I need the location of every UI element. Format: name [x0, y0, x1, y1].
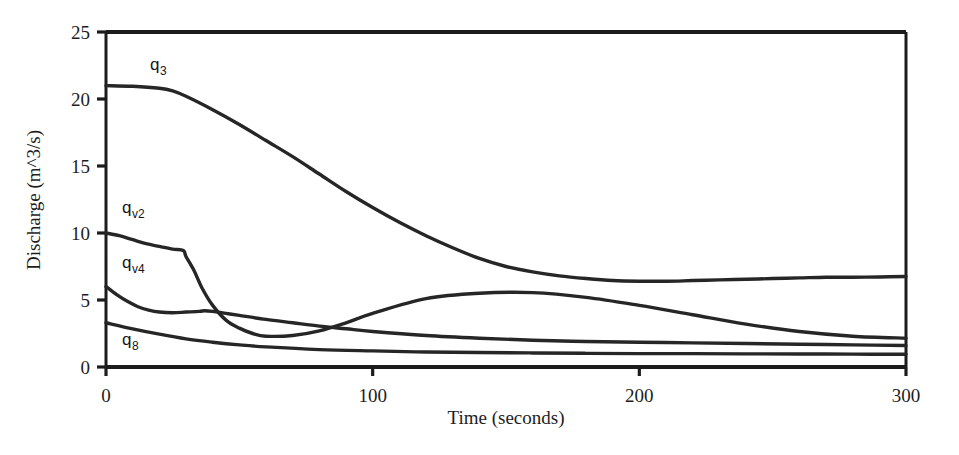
curve-q3: [106, 86, 906, 282]
axis-ticks: [97, 32, 906, 376]
series-label-subscript: v4: [132, 262, 145, 276]
series-label-subscript: 3: [160, 64, 167, 78]
series-label-qv4: qv4: [122, 253, 145, 276]
chart-figure: 05101520250100200300 q3qv2qv4q8 Time (se…: [0, 0, 959, 455]
series-label-subscript: 8: [132, 339, 139, 353]
x-tick-label: 100: [358, 385, 387, 406]
series-label-q3: q3: [150, 55, 167, 78]
y-tick-label: 25: [71, 22, 90, 43]
series-label-base: q: [122, 253, 131, 272]
x-axis-title: Time (seconds): [448, 407, 565, 429]
series-label-subscript: v2: [132, 207, 145, 221]
curve-qv4: [106, 287, 906, 346]
y-axis-title: Discharge (m^3/s): [23, 130, 45, 270]
series-label-base: q: [150, 55, 159, 74]
series-label-base: q: [122, 198, 131, 217]
discharge-time-line-chart: 05101520250100200300 q3qv2qv4q8 Time (se…: [0, 0, 959, 455]
series-label-q8: q8: [122, 330, 139, 353]
y-tick-label: 5: [81, 290, 91, 311]
curve-qv2: [106, 233, 906, 338]
x-tick-label: 300: [892, 385, 921, 406]
series-label-base: q: [122, 330, 131, 349]
series-label-qv2: qv2: [122, 198, 145, 221]
x-tick-label: 0: [101, 385, 111, 406]
data-curves: [106, 86, 906, 355]
y-tick-label: 10: [71, 223, 90, 244]
y-tick-label: 20: [71, 89, 90, 110]
plot-frame: [106, 32, 906, 367]
y-tick-label: 0: [81, 357, 91, 378]
axis-tick-labels: 05101520250100200300: [71, 22, 920, 406]
x-tick-label: 200: [625, 385, 654, 406]
y-tick-label: 15: [71, 156, 90, 177]
